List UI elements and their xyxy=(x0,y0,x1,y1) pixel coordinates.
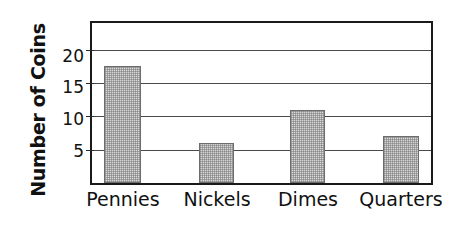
gridline-10 xyxy=(92,116,431,117)
y-tickmark-15 xyxy=(86,83,94,84)
y-tickmark-5 xyxy=(86,150,94,151)
bar-pennies xyxy=(104,66,141,183)
y-tick-label-10: 10 xyxy=(44,111,84,128)
gridline-20 xyxy=(92,50,431,51)
y-axis-tick-labels: 20 15 10 5 xyxy=(40,0,84,228)
plot-inner xyxy=(92,23,431,183)
bar-dimes xyxy=(290,110,325,183)
y-tick-label-15: 15 xyxy=(44,79,84,96)
gridline-15 xyxy=(92,83,431,84)
y-tickmark-10 xyxy=(86,116,94,117)
y-tick-label-20: 20 xyxy=(44,48,84,65)
x-label-dimes: Dimes xyxy=(272,190,344,209)
x-label-quarters: Quarters xyxy=(355,190,447,209)
bar-chart-figure: Number of Coins 20 15 10 5 Pennies Ni xyxy=(0,0,460,228)
x-label-pennies: Pennies xyxy=(82,190,164,209)
x-label-nickels: Nickels xyxy=(178,190,256,209)
bar-nickels xyxy=(199,143,234,183)
bar-quarters xyxy=(383,136,419,183)
y-tick-label-5: 5 xyxy=(44,143,84,160)
y-tickmark-20 xyxy=(86,50,94,51)
gridline-5 xyxy=(92,150,431,151)
plot-area xyxy=(90,21,433,185)
